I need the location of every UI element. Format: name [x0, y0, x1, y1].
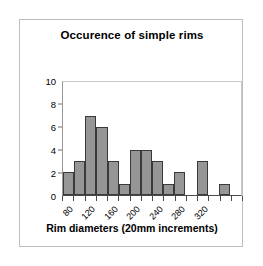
y-axis-tick-label: 0	[51, 191, 56, 202]
y-axis-tick-label: 6	[51, 122, 56, 133]
bar	[96, 127, 107, 195]
y-axis-tick-label: 4	[51, 145, 56, 156]
bar-cell	[152, 82, 163, 195]
plot-area	[62, 81, 242, 196]
bar-cell	[185, 82, 196, 195]
bar-cell	[108, 82, 119, 195]
x-axis-tick-label: 240	[147, 204, 165, 222]
bar-cell	[230, 82, 241, 195]
y-axis-tick-label: 8	[51, 99, 56, 110]
bar-cell	[219, 82, 230, 195]
bar-cell	[74, 82, 85, 195]
bar	[152, 161, 163, 195]
bar	[141, 150, 152, 195]
x-axis-tickmark	[242, 196, 243, 201]
bar	[219, 184, 230, 195]
bar-cell	[85, 82, 96, 195]
bar	[197, 161, 208, 195]
bar	[174, 172, 185, 195]
bar-cell	[163, 82, 174, 195]
x-axis-tick-label: 280	[169, 204, 187, 222]
x-axis-title: Rim diameters (20mm increments)	[20, 222, 244, 234]
y-axis-tick-label: 2	[51, 168, 56, 179]
bar	[119, 184, 130, 195]
bar-cell	[174, 82, 185, 195]
chart-figure: Occurence of simple rims 1086420 8012016…	[19, 19, 243, 247]
bar-series	[63, 82, 241, 195]
y-axis: 1086420	[20, 75, 62, 202]
bar	[74, 161, 85, 195]
bar-cell	[141, 82, 152, 195]
bar	[108, 161, 119, 195]
x-axis-tick-label: 160	[102, 204, 120, 222]
x-axis-tick-label: 200	[124, 204, 142, 222]
bar	[163, 184, 174, 195]
x-axis-tick-label: 80	[61, 204, 75, 218]
bar-cell	[130, 82, 141, 195]
x-axis-tick-label: 120	[79, 204, 97, 222]
bar-cell	[197, 82, 208, 195]
y-axis-tick-label: 10	[45, 76, 56, 87]
bar	[85, 116, 96, 195]
bar-cell	[63, 82, 74, 195]
chart-title: Occurence of simple rims	[20, 29, 244, 41]
bar-cell	[208, 82, 219, 195]
bar	[63, 172, 74, 195]
bar-cell	[119, 82, 130, 195]
bar-cell	[96, 82, 107, 195]
x-axis-tick-label: 320	[192, 204, 210, 222]
bar	[130, 150, 141, 195]
